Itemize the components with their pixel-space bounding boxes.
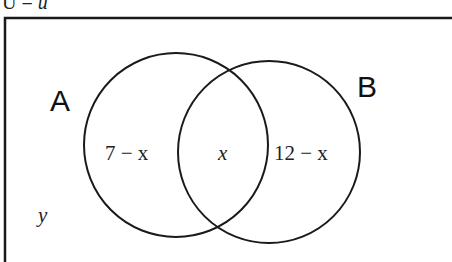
set-a-label: A (50, 86, 70, 116)
set-b-label: B (357, 72, 377, 102)
region-b-only-label: 12 − x (274, 143, 328, 164)
venn-canvas (0, 0, 452, 262)
universal-set-border (5, 18, 452, 262)
region-outside-label: y (38, 205, 47, 226)
region-a-only-label: 7 − x (105, 143, 148, 164)
region-intersection-label: x (218, 143, 227, 164)
set-b-circle (178, 61, 360, 243)
